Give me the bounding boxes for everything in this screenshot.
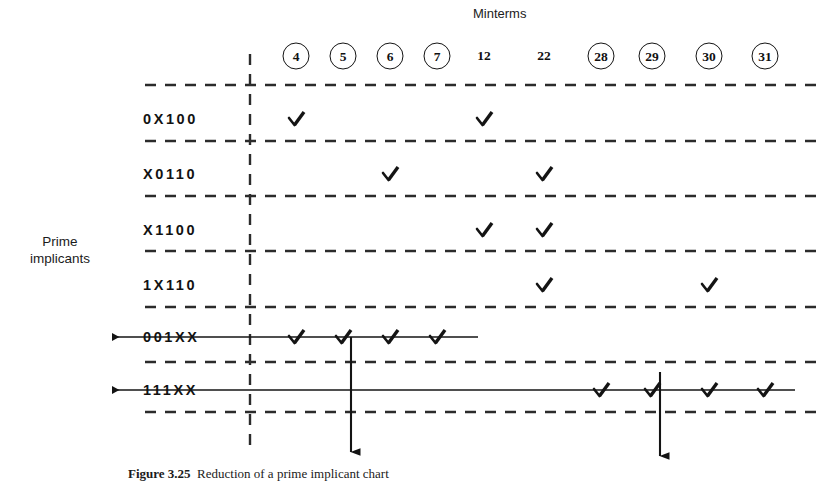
side-label-line1: Prime [42, 234, 77, 249]
prime-implicants-side-label: Prime implicants [30, 234, 90, 268]
column-header-28: 28 [588, 43, 615, 70]
column-header-5: 5 [330, 43, 357, 70]
row-label-X0110: X0110 [143, 166, 197, 182]
column-header-22: 22 [537, 49, 551, 63]
side-label-line2: implicants [30, 251, 90, 266]
checkmark-0X100-4 [289, 112, 304, 125]
covered-row-strikethrough-lines [112, 337, 795, 390]
checkmark-0X100-12 [477, 112, 492, 125]
checkmark-layer [289, 112, 773, 396]
checkmark-X1100-22 [537, 223, 552, 236]
essential-column-arrows [351, 337, 660, 456]
row-label-0X100: 0X100 [143, 111, 198, 127]
row-label-1X110: 1X110 [143, 277, 197, 293]
caption-number: Figure 3.25 [128, 466, 191, 481]
checkmark-1X110-30 [702, 278, 717, 291]
row-label-111XX: 111XX [143, 382, 198, 398]
column-header-7: 7 [424, 43, 451, 70]
checkmark-X0110-22 [537, 167, 552, 180]
checkmark-X0110-6 [383, 167, 398, 180]
column-header-4: 4 [283, 43, 310, 70]
column-header-30: 30 [696, 43, 723, 70]
figure-caption: Figure 3.25 Reduction of a prime implica… [128, 466, 389, 482]
column-header-29: 29 [639, 43, 666, 70]
checkmark-X1100-12 [477, 223, 492, 236]
row-label-001XX: 001XX [143, 329, 200, 345]
column-header-6: 6 [377, 43, 404, 70]
row-label-X1100: X1100 [143, 222, 197, 238]
horizontal-dashed-gridlines [145, 85, 816, 412]
column-header-31: 31 [752, 43, 779, 70]
checkmark-1X110-22 [537, 278, 552, 291]
minterms-header-label: Minterms [473, 6, 526, 21]
column-header-12: 12 [477, 49, 491, 63]
caption-text: Reduction of a prime implicant chart [197, 466, 389, 481]
